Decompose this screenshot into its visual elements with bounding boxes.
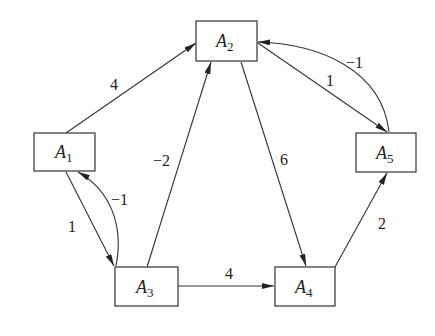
node-a2: A2 xyxy=(196,21,257,61)
edge-a1-a2 xyxy=(66,43,196,133)
node-a3: A3 xyxy=(115,267,178,306)
edge-a2-a4 xyxy=(241,62,306,266)
node-a4: A4 xyxy=(275,267,335,306)
edge-a2-a5 xyxy=(258,43,387,132)
edge-label-a2-a5: 1 xyxy=(326,72,334,89)
edges: 4 1 −1 −2 6 1 −1 4 2 xyxy=(66,42,389,286)
graph-canvas: 4 1 −1 −2 6 1 −1 4 2 A1 A2 A3 xyxy=(0,0,435,336)
edge-label-a1-a3: 1 xyxy=(68,218,76,235)
edge-label-a5-a2: −1 xyxy=(346,54,363,71)
edge-label-a4-a5: 2 xyxy=(378,215,386,232)
edge-a3-a1 xyxy=(78,172,118,266)
edge-label-a3-a2: −2 xyxy=(153,152,170,169)
edge-a5-a2 xyxy=(258,42,389,132)
edge-label-a1-a2: 4 xyxy=(110,76,118,93)
edge-label-a3-a1: −1 xyxy=(111,191,128,208)
edge-label-a3-a4: 4 xyxy=(225,265,233,282)
node-a5: A5 xyxy=(356,133,416,172)
node-a1: A1 xyxy=(34,133,95,171)
edge-label-a2-a4: 6 xyxy=(280,151,288,168)
